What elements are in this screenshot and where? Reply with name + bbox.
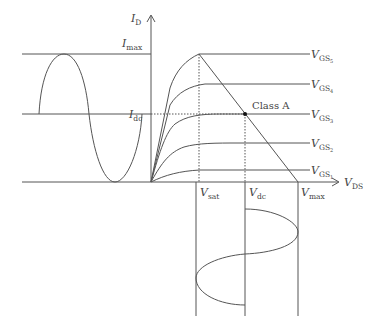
voltage-sine-wave [196, 209, 298, 305]
vgs-labels: VGS5 VGS4 VGS3 VGS2 VGS1 [302, 48, 333, 180]
load-line [199, 54, 298, 182]
q-point-marker [243, 112, 247, 116]
imax-label: Imax [121, 37, 143, 52]
vdc-label: Vdc [249, 186, 266, 201]
vgs5-curve [151, 54, 302, 182]
class-a-annotation: Class A [252, 100, 290, 111]
current-sine-wave [39, 54, 142, 182]
idc-label: Idc [128, 108, 142, 123]
vgs1-label: VGS1 [311, 164, 333, 180]
vsat-label: Vsat [200, 186, 219, 201]
vmax-label: Vmax [301, 186, 326, 201]
x-axis-label: VDS [344, 176, 363, 191]
vgs3-curve [151, 114, 302, 182]
vgs2-curve [151, 143, 302, 182]
class-a-diagram: ID VDS Imax Idc Vsat Vdc Vmax VGS5 VGS4 … [0, 0, 380, 331]
vgs1-curve [151, 170, 302, 182]
vgs4-curve [151, 84, 302, 182]
vgs4-label: VGS4 [311, 78, 333, 94]
y-axis-label: ID [130, 12, 141, 27]
vgs2-label: VGS2 [311, 137, 333, 153]
vgs3-label: VGS3 [311, 108, 333, 124]
vgs5-label: VGS5 [311, 48, 333, 64]
